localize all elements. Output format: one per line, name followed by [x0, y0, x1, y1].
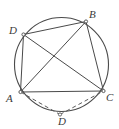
segment-A-Dbottom	[21, 92, 61, 115]
vertex-label-D-bottom: D	[58, 116, 66, 127]
segment-A-D	[21, 35, 24, 93]
segment-Dbottom-C	[60, 91, 104, 115]
vertex-point-B	[84, 20, 87, 23]
circumscribed-circle	[15, 18, 109, 112]
geometry-canvas	[0, 0, 119, 129]
vertex-point-C	[102, 89, 105, 92]
segment-A-C	[21, 91, 104, 92]
vertex-label-A: A	[6, 93, 13, 104]
vertex-point-A	[19, 90, 22, 93]
vertex-label-B: B	[89, 9, 96, 20]
vertex-point-D-top	[22, 33, 25, 36]
geometry-figure: A B C D D	[0, 0, 119, 129]
segment-D-B	[24, 22, 87, 35]
vertex-label-C: C	[106, 92, 113, 103]
segment-A-B-diagonal	[21, 22, 87, 93]
vertex-label-D-top: D	[9, 25, 17, 36]
